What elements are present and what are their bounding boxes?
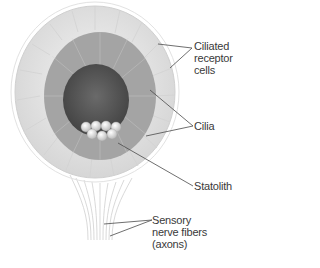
label-line: receptor: [194, 52, 233, 64]
label-statolith: Statolith: [194, 180, 232, 192]
label-ciliated-receptor-cells: Ciliated receptor cells: [194, 40, 233, 76]
label-line: cells: [194, 64, 233, 76]
label-line: nerve fibers: [152, 226, 207, 238]
nerve-fibers: [70, 175, 132, 240]
label-line: Sensory: [152, 214, 207, 226]
label-line: Ciliated: [194, 40, 233, 52]
label-sensory-nerve-fibers: Sensory nerve fibers (axons): [152, 214, 207, 250]
label-cilia: Cilia: [194, 120, 214, 132]
label-line: (axons): [152, 238, 207, 250]
